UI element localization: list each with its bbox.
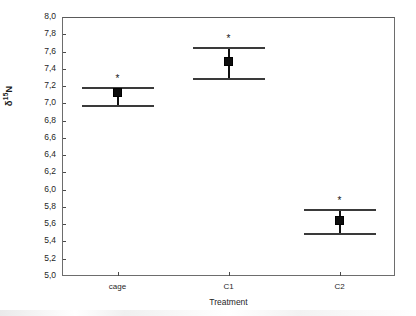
- x-axis-title: Treatment: [169, 297, 289, 307]
- data-point-marker: [113, 88, 122, 97]
- y-axis-title-element: N: [4, 86, 14, 93]
- data-point-marker: [224, 57, 233, 66]
- y-tick-label: 5,2: [22, 254, 56, 263]
- y-tick-label: 5,8: [22, 202, 56, 211]
- data-point-marker: [335, 216, 344, 225]
- y-tick-label: 8,0: [22, 12, 56, 21]
- scan-artifact: [0, 310, 416, 316]
- error-bar-cap: [304, 233, 376, 235]
- y-tick-label: 5,4: [22, 236, 56, 245]
- y-tick-label: 7,8: [22, 29, 56, 38]
- significance-asterisk: *: [113, 76, 123, 82]
- x-tick-mark: [229, 272, 230, 276]
- y-axis-title: δ15N: [2, 56, 22, 136]
- x-tick-label-c1: C1: [199, 282, 259, 291]
- x-tick-label-c2: C2: [310, 282, 370, 291]
- chart-figure: δ15N 5,05,25,45,65,86,06,26,46,66,87,07,…: [0, 0, 416, 316]
- y-tick-label: 7,4: [22, 64, 56, 73]
- y-tick-label: 7,2: [22, 81, 56, 90]
- error-bar-cap: [304, 209, 376, 211]
- y-axis-title-delta: δ: [3, 100, 14, 106]
- error-bar-cap: [193, 78, 265, 80]
- y-tick-label: 7,0: [22, 98, 56, 107]
- y-tick-label: 5,6: [22, 219, 56, 228]
- y-tick-label: 6,0: [22, 185, 56, 194]
- x-tick-mark: [340, 272, 341, 276]
- y-tick-label: 6,2: [22, 167, 56, 176]
- x-tick-mark: [118, 272, 119, 276]
- y-tick-label: 6,6: [22, 133, 56, 142]
- y-tick-label: 6,4: [22, 150, 56, 159]
- x-tick-label-cage: cage: [88, 282, 148, 291]
- y-tick-label: 6,8: [22, 116, 56, 125]
- y-tick-label: 7,6: [22, 47, 56, 56]
- error-bar-cap: [82, 105, 154, 107]
- significance-asterisk: *: [224, 36, 234, 42]
- y-axis-title-superscript: 15: [2, 93, 9, 101]
- y-tick-label: 5,0: [22, 271, 56, 280]
- error-bar-cap: [193, 47, 265, 49]
- significance-asterisk: *: [335, 198, 345, 204]
